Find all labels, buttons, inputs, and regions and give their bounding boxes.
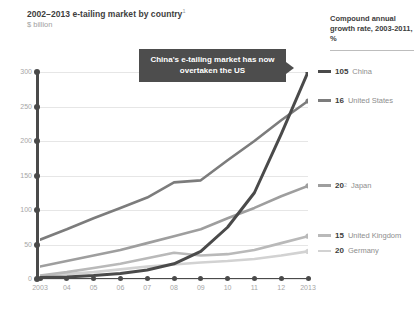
legend-item-germany[interactable]: 20Germany: [318, 246, 379, 255]
series-lines: [40, 72, 308, 279]
legend-value: 16: [335, 96, 344, 105]
x-axis-tick-label: 2013: [300, 284, 316, 291]
legend-heading: Compound annual growth rate, 2003-2011, …: [330, 14, 416, 44]
x-axis-tick-label: 12: [277, 284, 285, 291]
legend-divider: [330, 50, 414, 51]
legend-label: United States: [348, 96, 393, 105]
y-axis-tick-label: 200: [20, 137, 32, 144]
legend-value: 105: [335, 67, 348, 76]
x-axis-tick-label: 07: [143, 284, 151, 291]
y-axis-tick: [34, 104, 40, 110]
callout-arrow-icon: [286, 62, 294, 74]
y-axis-tick-label: 150: [20, 172, 32, 179]
y-axis-tick: [34, 69, 40, 75]
page-title-superscript: 1: [182, 8, 185, 14]
legend-value: 15: [335, 231, 344, 240]
y-axis-tick-label: 0: [28, 275, 32, 282]
y-axis-tick-label: 100: [20, 206, 32, 213]
y-axis-tick: [34, 207, 40, 213]
legend-item-china[interactable]: 105China: [318, 67, 372, 76]
series-line-united-kingdom: [40, 236, 308, 275]
y-axis-tick: [34, 138, 40, 144]
legend-superscript: 2: [344, 182, 347, 188]
x-axis-tick-label: 06: [116, 284, 124, 291]
chart-page: 2002–2013 e-tailing market by country1 $…: [0, 0, 419, 316]
y-axis-tick: [34, 173, 40, 179]
legend-swatch-icon: [318, 184, 331, 187]
page-title: 2002–2013 e-tailing market by country1: [27, 8, 186, 19]
legend-swatch-icon: [318, 250, 331, 253]
x-axis-tick-label: 11: [251, 284, 258, 291]
callout-text: China's e-tailing market has now overtak…: [150, 55, 274, 75]
y-axis-tick-label: 300: [20, 68, 32, 75]
legend-label: Germany: [348, 246, 379, 255]
x-axis-tick-label: 04: [63, 284, 71, 291]
x-axis-tick-label: 05: [90, 284, 98, 291]
x-axis-tick-label: 2003: [32, 284, 48, 291]
x-axis-tick-label: 10: [224, 284, 232, 291]
x-axis-tick-label: 08: [170, 284, 178, 291]
legend-label: China: [352, 67, 372, 76]
x-axis-tick-label: 09: [197, 284, 205, 291]
x-axis-tick: [145, 276, 150, 281]
legend-swatch-icon: [318, 234, 331, 237]
x-axis-tick: [279, 276, 284, 281]
y-axis-tick-label: 50: [24, 241, 32, 248]
legend-label: Japan: [351, 181, 371, 190]
callout-box: China's e-tailing market has now overtak…: [139, 49, 286, 82]
x-axis-tick: [306, 276, 311, 281]
y-axis-tick: [34, 242, 40, 248]
x-axis-tick: [172, 276, 177, 281]
legend-value: 20: [335, 246, 344, 255]
series-endpoint-germany: [305, 249, 308, 254]
legend-item-japan[interactable]: 202Japan: [318, 181, 371, 190]
legend-label: United Kingdom: [348, 231, 401, 240]
y-axis-labels: 050100150200250300: [6, 0, 32, 316]
legend-swatch-icon: [318, 99, 331, 102]
x-axis-tick: [38, 276, 43, 281]
legend-value: 20: [335, 181, 344, 190]
series-line-united-states: [40, 101, 308, 240]
legend-item-united-kingdom[interactable]: 15United Kingdom: [318, 231, 401, 240]
series-line-japan: [40, 186, 308, 267]
legend-swatch-icon: [318, 70, 331, 73]
x-axis-tick: [118, 276, 123, 281]
x-axis-tick: [252, 276, 257, 281]
plot-area: [40, 72, 308, 280]
legend-item-united-states[interactable]: 16United States: [318, 96, 393, 105]
page-title-text: 2002–2013 e-tailing market by country: [27, 9, 182, 19]
y-axis-tick-label: 250: [20, 103, 32, 110]
